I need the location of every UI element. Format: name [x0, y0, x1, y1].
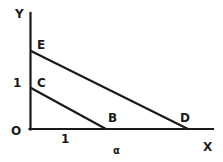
- diagram-canvas: [0, 0, 223, 162]
- point-label-e: E: [37, 39, 45, 51]
- origin-label: O: [11, 125, 21, 137]
- x-axis-variable-alpha-label: α: [113, 146, 120, 156]
- x-axis-label: X: [203, 141, 212, 153]
- point-label-d: D: [180, 112, 190, 124]
- line-segment-cb: [31, 88, 106, 129]
- y-axis-tick-label-1: 1: [13, 77, 22, 89]
- point-label-c: C: [37, 77, 46, 89]
- point-label-b: B: [108, 112, 117, 124]
- economics-budget-line-diagram: Y X O 1 1 α E C B D: [0, 0, 223, 162]
- x-axis-tick-label-1: 1: [61, 133, 70, 145]
- y-axis-label: Y: [15, 8, 24, 20]
